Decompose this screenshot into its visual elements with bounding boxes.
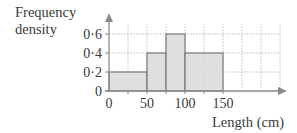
x-axis-arrow-icon: [278, 87, 287, 95]
x-tick-label: 50: [140, 96, 154, 111]
y-tick-label: 0·6: [83, 27, 102, 42]
x-axis-label: Length (cm): [212, 114, 284, 131]
histogram-bar: [185, 53, 223, 91]
histogram-bar: [109, 72, 147, 91]
x-tick-label: 100: [175, 96, 196, 111]
y-tick-label: 0·4: [83, 46, 102, 61]
y-tick-label: 0: [95, 84, 102, 99]
histogram-bar: [147, 53, 166, 91]
x-tick-label: 150: [213, 96, 234, 111]
y-axis-arrow-icon: [105, 13, 113, 22]
histogram-bar: [166, 34, 185, 91]
y-tick-label: 0·2: [83, 65, 102, 80]
x-tick-label: 0: [106, 96, 113, 111]
